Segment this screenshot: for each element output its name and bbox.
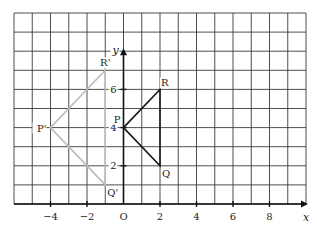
vertex-label-r-prime: R': [100, 57, 110, 68]
x-tick-label: 2: [157, 211, 163, 222]
x-tick-label: 8: [266, 211, 272, 222]
y-tick-label: 2: [110, 160, 116, 171]
y-axis-arrow-icon: [120, 48, 127, 55]
x-axis-arrow-icon: [301, 201, 308, 208]
vertex-label-q: Q: [162, 168, 170, 179]
x-tick-label: 4: [193, 211, 199, 222]
vertex-label-q-prime: Q': [107, 187, 118, 198]
labels: −4−22468246OxyPQRP'Q'R': [33, 44, 310, 224]
coordinate-grid-diagram: −4−22468246OxyPQRP'Q'R': [0, 0, 317, 230]
vertex-label-r: R: [161, 77, 169, 88]
x-tick-label: −2: [80, 211, 95, 222]
y-axis-label: y: [111, 44, 119, 57]
origin-label: O: [119, 211, 127, 222]
vertex-label-p: P: [114, 114, 121, 125]
y-tick-label: 6: [110, 84, 116, 95]
x-axis-label: x: [303, 211, 310, 224]
x-tick-label: −4: [43, 211, 58, 222]
vertex-label-p-prime: P': [37, 123, 46, 134]
x-tick-label: 6: [230, 211, 236, 222]
